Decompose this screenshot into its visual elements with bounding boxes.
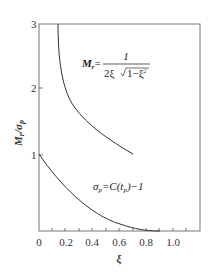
x-tick-labels: 0 0.2 0.4 0.6 0.8 1.0 bbox=[36, 236, 180, 248]
y-tick-1: 1 bbox=[31, 149, 37, 161]
svg-text:1: 1 bbox=[123, 50, 129, 62]
y-tick-3: 3 bbox=[31, 18, 37, 30]
svg-text:1−ξ2: 1−ξ2 bbox=[127, 67, 147, 80]
y-tick-2: 2 bbox=[31, 82, 37, 94]
x-tick-0.6: 0.6 bbox=[112, 236, 126, 248]
x-tick-0: 0 bbox=[36, 236, 42, 248]
plot-frame bbox=[39, 24, 200, 231]
y-axis-label: Mr/σp bbox=[12, 120, 26, 147]
formula-mr: Mr= 1 2ξ 1−ξ2 bbox=[81, 50, 150, 80]
x-tick-1.0: 1.0 bbox=[166, 236, 180, 248]
svg-text:σp=C(tp)−1: σp=C(tp)−1 bbox=[93, 180, 144, 194]
formula-sigma-p: σp=C(tp)−1 bbox=[93, 180, 144, 194]
y-axis: 3 2 1 bbox=[31, 18, 43, 161]
x-axis-label: ξ bbox=[117, 252, 122, 265]
chart: 3 2 1 Mr/σp 0 0.2 0.4 0.6 0.8 1.0 ξ Mr= bbox=[0, 0, 213, 272]
x-tick-0.2: 0.2 bbox=[59, 236, 73, 248]
curve-mr bbox=[58, 24, 133, 154]
x-tick-0.4: 0.4 bbox=[85, 236, 99, 248]
svg-text:2ξ: 2ξ bbox=[104, 67, 115, 80]
x-tick-0.8: 0.8 bbox=[139, 236, 153, 248]
svg-text:Mr=: Mr= bbox=[81, 57, 101, 71]
